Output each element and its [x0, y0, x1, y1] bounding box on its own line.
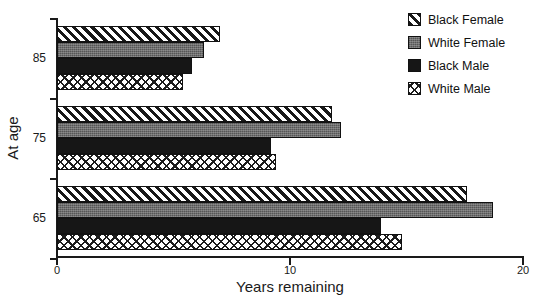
bar — [57, 42, 204, 58]
bar — [57, 202, 493, 218]
bar — [57, 74, 183, 90]
bar — [57, 122, 341, 138]
legend-swatch-icon — [408, 59, 421, 72]
legend-swatch-icon — [408, 13, 421, 26]
legend: Black FemaleWhite FemaleBlack MaleWhite … — [408, 10, 505, 102]
bar — [57, 154, 276, 170]
y-axis-tick — [50, 258, 57, 260]
bar — [57, 138, 271, 154]
legend-item: Black Male — [408, 56, 505, 75]
legend-swatch-icon — [408, 36, 421, 49]
y-axis-tick — [50, 18, 57, 20]
y-axis-tick-label: 85 — [0, 51, 55, 65]
bar-chart: At age Years remaining Black FemaleWhite… — [0, 0, 541, 303]
y-axis-tick — [50, 178, 57, 180]
bar — [57, 218, 381, 234]
legend-item: White Female — [408, 33, 505, 52]
y-axis-tick — [50, 98, 57, 100]
legend-swatch-icon — [408, 82, 421, 95]
y-axis-tick-label: 75 — [0, 131, 55, 145]
bar — [57, 26, 220, 42]
x-axis-tick-label: 10 — [284, 264, 296, 276]
bar — [57, 186, 467, 202]
bar — [57, 58, 192, 74]
legend-item-label: Black Male — [428, 59, 489, 73]
x-axis-label: Years remaining — [236, 278, 344, 295]
legend-item-label: Black Female — [428, 13, 504, 27]
legend-item: White Male — [408, 79, 505, 98]
bar — [57, 234, 402, 250]
legend-item-label: White Female — [428, 36, 505, 50]
bar — [57, 106, 332, 122]
x-axis-tick-label: 0 — [54, 264, 60, 276]
y-axis-tick-label: 65 — [0, 211, 55, 225]
x-axis-tick-label: 20 — [517, 264, 529, 276]
legend-item: Black Female — [408, 10, 505, 29]
legend-item-label: White Male — [428, 82, 491, 96]
